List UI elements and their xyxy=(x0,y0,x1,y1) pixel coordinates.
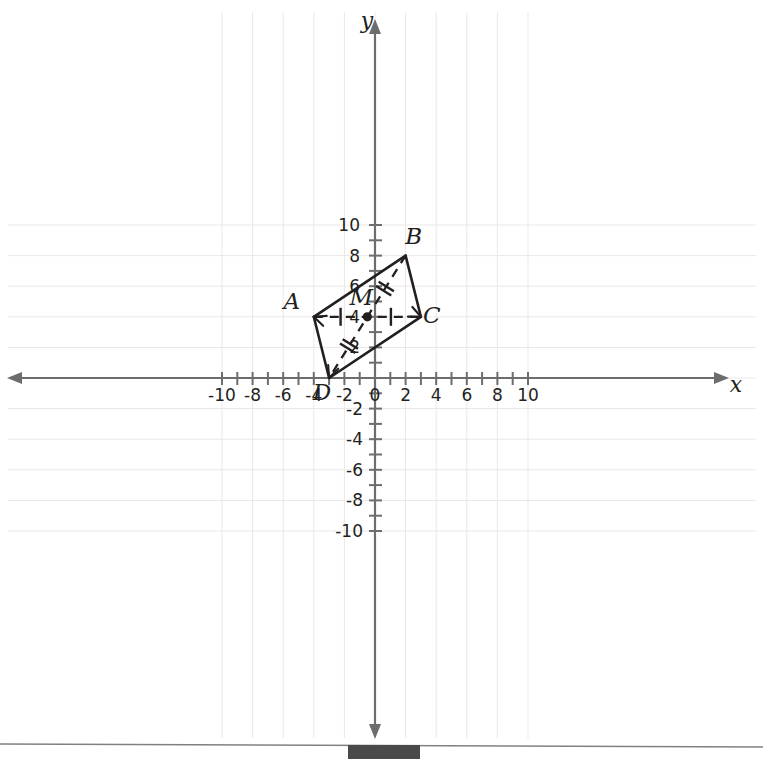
x-tick-label: -8 xyxy=(244,385,261,405)
y-tick-label: -6 xyxy=(346,460,363,480)
y-tick-label: 10 xyxy=(338,215,360,235)
coordinate-plane-figure: -10-8-6-4-20246810 108642-2-4-6-8-10 y x… xyxy=(0,0,763,759)
y-tick-label: -8 xyxy=(346,490,363,510)
x-tick-label: 2 xyxy=(400,385,411,405)
y-axis-arrow-down xyxy=(369,724,381,739)
y-tick-label: -4 xyxy=(346,429,363,449)
x-tick-label: 10 xyxy=(517,385,539,405)
x-axis-label: x xyxy=(730,372,743,397)
axes xyxy=(7,19,729,739)
parallelogram-plot: -10-8-6-4-20246810 108642-2-4-6-8-10 y x… xyxy=(0,0,763,759)
midpoint-dot xyxy=(363,312,372,321)
x-tick-label: 8 xyxy=(492,385,503,405)
x-axis-tick-labels: -10-8-6-4-20246810 xyxy=(208,385,539,405)
x-tick-label: -10 xyxy=(208,385,236,405)
x-tick-label: -6 xyxy=(275,385,292,405)
y-axis-label: y xyxy=(360,8,374,33)
x-tick-label: 0 xyxy=(370,385,381,405)
x-axis-arrow-left xyxy=(7,372,22,384)
y-tick-label: 8 xyxy=(349,246,360,266)
x-tick-label: 6 xyxy=(461,385,472,405)
y-tick-label: -10 xyxy=(335,521,363,541)
vertex-label-b: B xyxy=(404,223,422,249)
footer-artifact xyxy=(0,744,763,759)
x-tick-label: 4 xyxy=(431,385,442,405)
vertex-label-c: C xyxy=(423,302,441,328)
vertex-label-a: A xyxy=(281,288,300,314)
footer-block xyxy=(348,745,420,759)
x-axis-arrow-right xyxy=(714,372,729,384)
background-grid xyxy=(8,12,756,738)
y-tick-label: -2 xyxy=(346,399,363,419)
vertex-label-m: M xyxy=(349,284,375,310)
vertex-label-d: D xyxy=(312,379,331,405)
